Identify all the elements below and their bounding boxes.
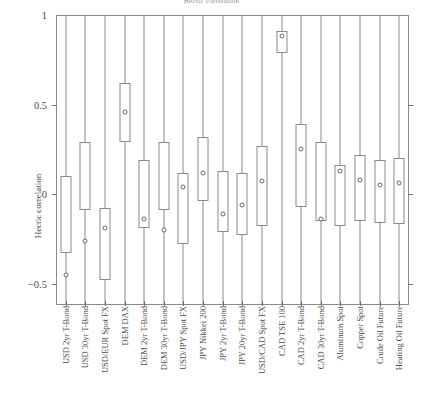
box-quartile-rect[interactable]: [198, 137, 209, 201]
x-tick-label: DEM DAX: [120, 306, 130, 345]
x-tick-label: Aluminum Spot: [335, 306, 345, 361]
mean-marker: [83, 238, 88, 243]
boxplot-series[interactable]: [213, 15, 233, 305]
mean-marker: [397, 181, 402, 186]
box-quartile-rect[interactable]: [178, 173, 189, 245]
boxplot-series[interactable]: [370, 15, 390, 305]
x-tick-label: JPY Nikkei 200: [198, 306, 208, 360]
whisker-line: [222, 15, 223, 305]
box-quartile-rect[interactable]: [354, 155, 365, 221]
y-tick-label: 1: [42, 10, 47, 21]
boxplot-series[interactable]: [154, 15, 174, 305]
whisker-line: [124, 15, 125, 305]
mean-marker: [181, 184, 186, 189]
box-quartile-rect[interactable]: [217, 171, 228, 232]
boxplot-series[interactable]: [311, 15, 331, 305]
chart-root: Hectic correlation Hectic correlation 10…: [0, 0, 423, 412]
x-tick-label: Copper Spot: [355, 306, 365, 349]
whisker-line: [183, 15, 184, 305]
x-tick-label: DEM 30yr T-Bond: [159, 306, 169, 370]
mean-marker: [318, 217, 323, 222]
box-quartile-rect[interactable]: [80, 142, 91, 210]
y-tick-label: 0.5: [34, 99, 47, 110]
mean-marker: [259, 179, 264, 184]
mean-marker: [299, 147, 304, 152]
x-tick-label: JPY 20yr T-Bond: [237, 306, 247, 365]
mean-marker: [338, 168, 343, 173]
y-tick-label: 0: [42, 189, 47, 200]
mean-marker: [122, 109, 127, 114]
y-axis-title: Hectic correlation: [33, 174, 43, 239]
mean-marker: [161, 227, 166, 232]
chart-title: Hectic correlation: [0, 0, 423, 3]
boxplot-series[interactable]: [134, 15, 154, 305]
x-tick-label: Heating Oil Future: [394, 306, 404, 370]
box-quartile-rect[interactable]: [60, 176, 71, 253]
whisker-line: [340, 15, 341, 305]
mean-marker: [279, 34, 284, 39]
mean-marker: [63, 272, 68, 277]
x-axis-labels: USD 2yr T-BondUSD 30yr T-BondUSD/EUR Spo…: [56, 306, 409, 412]
mean-marker: [357, 177, 362, 182]
x-tick-label: USD 30yr T-Bond: [80, 306, 90, 368]
boxplot-series[interactable]: [291, 15, 311, 305]
box-quartile-rect[interactable]: [335, 165, 346, 226]
box-quartile-rect[interactable]: [100, 208, 111, 280]
x-tick-label: USD/CAD Spot FX: [257, 306, 267, 374]
mean-marker: [103, 226, 108, 231]
boxplot-series[interactable]: [252, 15, 272, 305]
boxplot-series[interactable]: [95, 15, 115, 305]
whisker-line: [65, 15, 66, 305]
x-tick-label: DEM 2yr T-Bond: [139, 306, 149, 366]
x-tick-label: Crude Oil Future: [375, 306, 385, 364]
box-quartile-rect[interactable]: [256, 146, 267, 227]
plot-area: 10.50−0.5: [56, 15, 409, 305]
y-tick-label: −0.5: [28, 278, 47, 289]
x-tick-label: USD 2yr T-Bond: [61, 306, 71, 364]
boxplot-series[interactable]: [350, 15, 370, 305]
boxplot-series[interactable]: [233, 15, 253, 305]
mean-marker: [201, 170, 206, 175]
boxplot-series[interactable]: [193, 15, 213, 305]
boxplot-series[interactable]: [115, 15, 135, 305]
mean-marker: [377, 183, 382, 188]
boxplot-series[interactable]: [272, 15, 292, 305]
mean-marker: [220, 211, 225, 216]
x-tick-label: USD/JPY Spot FX: [178, 306, 188, 370]
boxplot-series[interactable]: [174, 15, 194, 305]
boxplot-series[interactable]: [76, 15, 96, 305]
box-quartile-rect[interactable]: [315, 142, 326, 221]
x-tick-label: CAD TSE 100: [277, 306, 287, 356]
box-quartile-rect[interactable]: [158, 142, 169, 210]
box-quartile-rect[interactable]: [394, 158, 405, 224]
mean-marker: [142, 217, 147, 222]
box-quartile-rect[interactable]: [296, 124, 307, 206]
boxplot-series[interactable]: [56, 15, 76, 305]
whisker-line: [242, 15, 243, 305]
x-tick-label: CAD 30yr T-Bond: [316, 306, 326, 369]
box-quartile-rect[interactable]: [374, 160, 385, 223]
mean-marker: [240, 202, 245, 207]
x-tick-label: JPY 2yr T-Bond: [218, 306, 228, 361]
x-tick-label: CAD 2yr T-Bond: [296, 306, 306, 365]
whisker-line: [281, 15, 282, 305]
boxplot-series[interactable]: [389, 15, 409, 305]
x-tick-label: USD/EUR Spot FX: [100, 306, 110, 373]
boxplot-series[interactable]: [331, 15, 351, 305]
